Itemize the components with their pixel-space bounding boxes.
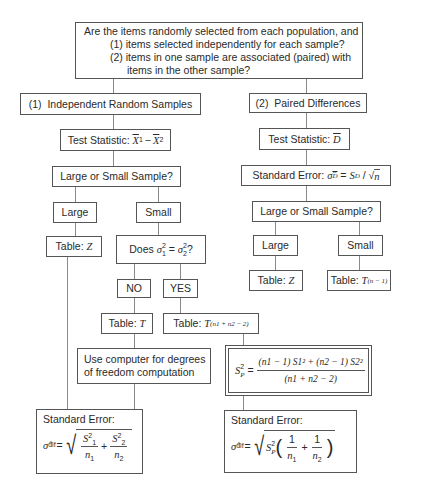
connector-right-large-table <box>275 255 276 270</box>
connector-left-small <box>158 186 159 202</box>
large-left-box: Large <box>53 202 97 223</box>
question-line-1: (1) items selected independently for eac… <box>84 38 345 51</box>
standard-error-unpooled-box: Standard Error: σ̂dif = √ S21n1 + S22n2 <box>36 409 143 474</box>
degrees-of-freedom: (n − 1) <box>367 277 387 285</box>
large-right-label: Large <box>262 239 289 252</box>
connector-does-yes <box>180 263 181 279</box>
standard-error-label: Standard Error: <box>252 169 324 182</box>
connector-right-small-table <box>359 255 360 270</box>
small-right-label: Small <box>347 239 373 252</box>
connector-small-does <box>158 222 159 235</box>
pooled-variance-box: S2P = (n1 − 1) S1² + (n2 − 1) S2² (n1 + … <box>225 345 372 396</box>
yes-box: YES <box>163 279 198 298</box>
does-label: Does <box>129 243 154 256</box>
test-statistic-paired-box: Test Statistic: D <box>259 128 350 150</box>
connector-does-no <box>134 263 135 279</box>
connector-top-left <box>113 78 114 93</box>
pooled-denominator: (n1 + n2 − 2) <box>284 374 336 384</box>
degrees-of-freedom: (n1 + n2 − 2) <box>210 320 249 328</box>
standard-error-paired-box: Standard Error: σ̂D = SD / √n <box>241 165 391 186</box>
connector-right-small <box>359 221 360 235</box>
connector-tablet-computer <box>134 333 135 348</box>
table-label: Table: <box>109 317 137 330</box>
table-label: Table: <box>331 274 359 287</box>
paired-differences-label: (2) Paired Differences <box>256 97 361 110</box>
test-statistic-label: Test Statistic: <box>268 133 330 146</box>
standard-error-label: Standard Error: <box>43 413 115 426</box>
variance-equality-question-box: Does σ21 = σ22 ? <box>116 235 206 264</box>
question-line-2b: items in the other sample? <box>84 64 250 77</box>
connector-tabletdf-sp <box>243 333 244 345</box>
connector-right-large <box>275 221 276 235</box>
standard-error-pooled-box: Standard Error: σ̂dif = √ S2P ( 1n1 + 1n… <box>224 410 357 473</box>
table-z-right-box: Table: Z <box>249 270 303 291</box>
small-left-label: Small <box>145 206 171 219</box>
sample-size-question-left-box: Large or Small Sample? <box>52 166 181 187</box>
table-label: Table: <box>258 274 286 287</box>
standard-error-label: Standard Error: <box>231 414 303 427</box>
pooled-numerator: (n1 − 1) S1² + (n2 − 1) S2² <box>259 357 363 367</box>
small-left-box: Small <box>136 202 181 223</box>
connector-large-table <box>75 222 76 236</box>
table-z-left-box: Table: Z <box>46 236 102 257</box>
table-label: Table: <box>56 240 84 253</box>
x-bar-1: X <box>132 134 138 147</box>
d-bar: D <box>333 133 341 146</box>
no-box: NO <box>117 279 151 298</box>
connector-computer-se <box>134 383 135 409</box>
test-statistic-label: Test Statistic: <box>68 134 130 147</box>
connector-sp-se <box>243 395 244 410</box>
large-left-label: Large <box>62 206 89 219</box>
connector-right-spine <box>306 112 307 201</box>
table-t-box: Table: T <box>101 313 153 334</box>
test-statistic-independent-box: Test Statistic: X1 − X2 <box>60 129 171 151</box>
connector-top-right <box>306 78 307 93</box>
paired-differences-box: (2) Paired Differences <box>249 93 367 113</box>
sample-size-question-right-box: Large or Small Sample? <box>252 201 381 222</box>
sample-size-question-right: Large or Small Sample? <box>260 205 373 218</box>
sqrt-unpooled: √ S21n1 + S22n2 <box>64 429 133 461</box>
table-dist: Z <box>87 240 93 253</box>
connector-left-large <box>75 186 76 202</box>
connector-no-tablet <box>134 297 135 313</box>
table-t-paired-box: Table: T(n − 1) <box>327 270 391 291</box>
independent-samples-box: (1) Independent Random Samples <box>20 93 201 115</box>
small-right-box: Small <box>338 235 383 256</box>
table-dist: T <box>140 317 146 330</box>
connector-tablez-se <box>67 256 68 409</box>
no-label: NO <box>126 282 142 295</box>
independent-samples-label: (1) Independent Random Samples <box>29 98 192 111</box>
question-line-2a: (2) items in one sample are associated (… <box>84 51 351 64</box>
sqrt-pooled: √ S2P ( 1n1 + 1n2 ) <box>252 430 336 462</box>
sample-size-question-left: Large or Small Sample? <box>60 170 173 183</box>
computer-note-line-1: Use computer for degrees <box>84 353 205 366</box>
yes-label: YES <box>170 282 191 295</box>
table-label: Table: <box>173 317 201 330</box>
table-t-pooled-box: Table: T(n1 + n2 − 2) <box>163 313 259 334</box>
large-right-box: Large <box>253 235 298 256</box>
computer-note-line-2: of freedom computation <box>84 366 194 379</box>
question-line-0: Are the items randomly selected from eac… <box>84 25 358 38</box>
computer-note-box: Use computer for degrees of freedom comp… <box>77 348 211 384</box>
table-dist: Z <box>289 274 295 287</box>
question-box: Are the items randomly selected from eac… <box>75 22 363 79</box>
connector-yes-tablet <box>180 297 181 313</box>
